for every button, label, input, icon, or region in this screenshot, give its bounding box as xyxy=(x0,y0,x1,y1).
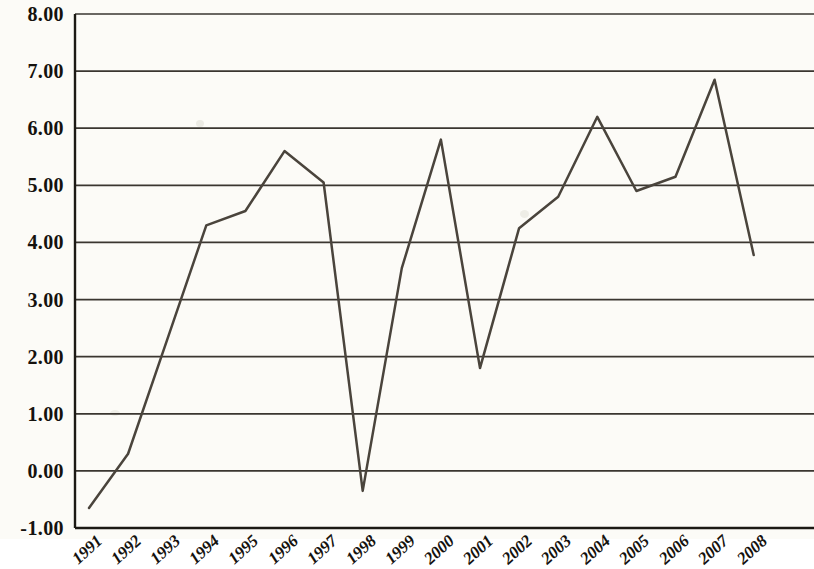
x-axis-tick-label: 1995 xyxy=(225,531,264,569)
x-axis-tick-label: 2006 xyxy=(655,531,694,569)
x-axis-tick-label: 2002 xyxy=(498,531,537,569)
x-axis-tick-label: 2005 xyxy=(616,531,655,569)
x-axis-tick-label: 1999 xyxy=(381,531,420,569)
x-axis-tick-label: 1991 xyxy=(68,531,107,569)
x-axis-tick-label: 1993 xyxy=(146,531,185,569)
x-axis-tick-label: 1994 xyxy=(185,531,224,569)
x-axis-tick-label: 2008 xyxy=(733,531,772,569)
x-axis-tick-label: 2000 xyxy=(420,531,459,569)
x-axis-tick-label: 1996 xyxy=(264,531,303,569)
x-axis-tick-label: 1998 xyxy=(342,531,381,569)
x-axis-tick-label: 2003 xyxy=(537,531,576,569)
x-axis-tick-label: 1992 xyxy=(107,531,146,569)
x-axis-tick-label: 1997 xyxy=(303,531,342,569)
x-axis-tick-label: 2001 xyxy=(459,531,498,569)
x-axis-tick-label: 2007 xyxy=(694,531,733,569)
x-axis-tick-label: 2004 xyxy=(576,531,615,569)
